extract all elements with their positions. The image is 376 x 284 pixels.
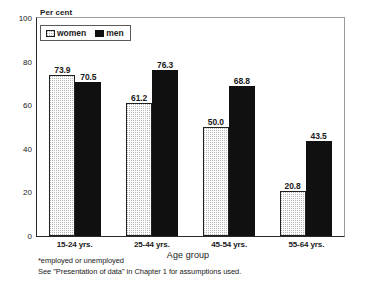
legend-swatch-men-icon	[95, 30, 104, 37]
bar-value-label: 43.5	[311, 131, 327, 141]
bar-value-label: 61.2	[131, 93, 147, 103]
bar-wrap-women: 20.8	[280, 18, 306, 236]
footnote-line: See "Presentation of data" in Chapter 1 …	[38, 266, 368, 277]
y-tick-80: 80	[0, 57, 37, 66]
bar-pair: 20.8 43.5	[267, 18, 344, 236]
bar-men[interactable]: 68.8	[229, 86, 255, 236]
bar-women[interactable]: 20.8	[280, 191, 306, 236]
bar-value-label: 73.9	[54, 65, 70, 75]
bar-wrap-women: 73.9	[49, 18, 75, 236]
bar-value-label: 76.3	[157, 60, 173, 70]
bar-wrap-men: 70.5	[75, 18, 101, 236]
bar-men[interactable]: 76.3	[152, 70, 178, 236]
bar-pair: 61.2 76.3	[114, 18, 191, 236]
bar-pair: 50.0 68.8	[191, 18, 268, 236]
bar-wrap-men: 43.5	[306, 18, 332, 236]
bar-pair: 73.9 70.5	[37, 18, 114, 236]
legend-item-men[interactable]: men	[95, 28, 123, 38]
y-tick-60: 60	[0, 101, 37, 110]
bar-men[interactable]: 70.5	[75, 82, 101, 236]
legend-label-men: men	[106, 28, 123, 38]
bar-men[interactable]: 43.5	[306, 141, 332, 236]
y-tick-40: 40	[0, 144, 37, 153]
bar-value-label: 20.8	[285, 181, 301, 191]
y-tick-0: 0	[0, 232, 37, 241]
bar-group: 20.8 43.5	[267, 18, 344, 236]
x-tick-label: 55-64 yrs.	[268, 240, 345, 249]
x-tick-label: 25-44 yrs.	[113, 240, 190, 249]
bar-group: 73.9 70.5	[37, 18, 114, 236]
bar-women[interactable]: 50.0	[203, 127, 229, 236]
y-axis-title: Per cent	[40, 8, 72, 17]
footnote-line: *employed or unemployed	[38, 255, 368, 266]
y-tick-20: 20	[0, 188, 37, 197]
bar-women[interactable]: 73.9	[49, 75, 75, 236]
bar-wrap-women: 61.2	[126, 18, 152, 236]
bar-chart-figure: Per cent 0 20 40 60 80 100 73.9 70.5	[0, 0, 376, 284]
bar-women[interactable]: 61.2	[126, 103, 152, 236]
legend-label-women: women	[57, 28, 86, 38]
bar-value-label: 70.5	[80, 72, 96, 82]
bar-value-label: 50.0	[208, 117, 224, 127]
bar-groups: 73.9 70.5 61.2	[37, 18, 344, 236]
bar-wrap-women: 50.0	[203, 18, 229, 236]
bar-wrap-men: 68.8	[229, 18, 255, 236]
plot-area: 0 20 40 60 80 100 73.9 70.5	[36, 17, 345, 237]
bar-group: 50.0 68.8	[191, 18, 268, 236]
x-tick-label: 45-54 yrs.	[191, 240, 268, 249]
chart-footnotes: *employed or unemployed See "Presentatio…	[38, 255, 368, 277]
chart-legend: women men	[40, 25, 131, 41]
legend-swatch-women-icon	[46, 30, 55, 37]
bar-value-label: 68.8	[234, 76, 250, 86]
legend-item-women[interactable]: women	[46, 28, 86, 38]
y-tick-100: 100	[0, 14, 37, 23]
bar-wrap-men: 76.3	[152, 18, 178, 236]
bar-group: 61.2 76.3	[114, 18, 191, 236]
x-axis-tick-labels: 15-24 yrs. 25-44 yrs. 45-54 yrs. 55-64 y…	[36, 240, 345, 249]
x-tick-label: 15-24 yrs.	[36, 240, 113, 249]
